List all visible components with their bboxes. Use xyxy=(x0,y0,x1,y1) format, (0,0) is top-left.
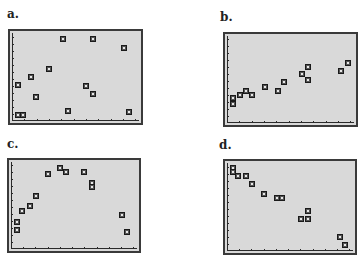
x-tick-a xyxy=(61,119,62,121)
x-tick-d xyxy=(251,249,252,251)
data-point-marker xyxy=(281,79,287,85)
data-point-marker xyxy=(119,212,125,218)
data-point-marker xyxy=(45,171,51,177)
y-tick-d xyxy=(227,195,229,196)
data-point-marker xyxy=(275,88,281,94)
y-tick-b xyxy=(227,109,229,110)
x-tick-b xyxy=(301,121,302,123)
data-point-marker xyxy=(124,229,130,235)
data-point-marker xyxy=(305,64,311,70)
x-axis-d xyxy=(227,250,353,251)
x-tick-b xyxy=(313,121,314,123)
y-tick-c xyxy=(11,200,13,201)
data-point-marker xyxy=(235,173,241,179)
y-tick-c xyxy=(11,228,13,229)
data-point-marker xyxy=(14,219,20,225)
y-tick-d xyxy=(227,244,229,245)
y-tick-c xyxy=(11,172,13,173)
data-point-marker xyxy=(298,216,304,222)
x-tick-a xyxy=(74,119,75,121)
data-point-marker xyxy=(89,184,95,190)
x-tick-b xyxy=(239,121,240,123)
y-tick-d xyxy=(227,237,229,238)
data-point-marker xyxy=(20,112,26,118)
y-tick-a xyxy=(12,79,14,80)
y-tick-b xyxy=(227,95,229,96)
x-tick-c xyxy=(35,247,36,249)
y-tick-b xyxy=(227,46,229,47)
x-tick-d xyxy=(337,249,338,251)
data-point-marker xyxy=(28,74,34,80)
y-tick-a xyxy=(12,51,14,52)
y-tick-a xyxy=(12,65,14,66)
y-tick-b xyxy=(227,81,229,82)
x-tick-b xyxy=(276,121,277,123)
y-tick-b xyxy=(227,116,229,117)
y-tick-d xyxy=(227,216,229,217)
x-tick-d xyxy=(276,249,277,251)
x-tick-a xyxy=(24,119,25,121)
data-point-marker xyxy=(27,203,33,209)
y-tick-d xyxy=(227,223,229,224)
data-point-marker xyxy=(65,108,71,114)
x-tick-c xyxy=(121,247,122,249)
x-axis-a xyxy=(12,120,139,121)
data-point-marker xyxy=(19,208,25,214)
x-axis-c xyxy=(11,248,137,249)
x-tick-a xyxy=(135,119,136,121)
y-tick-a xyxy=(12,86,14,87)
data-point-marker xyxy=(243,173,249,179)
scatter-plot-c xyxy=(7,158,141,253)
y-tick-b xyxy=(227,88,229,89)
x-tick-a xyxy=(49,119,50,121)
data-point-marker xyxy=(243,88,249,94)
x-tick-c xyxy=(48,247,49,249)
scatter-plot-b xyxy=(223,32,358,127)
x-tick-c xyxy=(72,247,73,249)
data-point-marker xyxy=(342,242,348,248)
y-tick-d xyxy=(227,181,229,182)
data-point-marker xyxy=(14,227,20,233)
data-point-marker xyxy=(299,71,305,77)
x-axis-b xyxy=(227,122,354,123)
y-tick-c xyxy=(11,242,13,243)
data-point-marker xyxy=(230,95,236,101)
data-point-marker xyxy=(261,191,267,197)
data-point-marker xyxy=(63,169,69,175)
data-point-marker xyxy=(249,92,255,98)
data-point-marker xyxy=(33,94,39,100)
data-point-marker xyxy=(249,181,255,187)
data-point-marker xyxy=(83,83,89,89)
x-tick-a xyxy=(86,119,87,121)
plot-area-d xyxy=(227,163,353,251)
x-tick-c xyxy=(97,247,98,249)
scatter-plot-a xyxy=(8,29,143,125)
x-tick-d xyxy=(313,249,314,251)
x-tick-c xyxy=(109,247,110,249)
y-tick-d xyxy=(227,209,229,210)
data-point-marker xyxy=(305,208,311,214)
y-tick-b xyxy=(227,67,229,68)
data-point-marker xyxy=(46,66,52,72)
x-tick-a xyxy=(37,119,38,121)
x-tick-c xyxy=(60,247,61,249)
data-point-marker xyxy=(345,60,351,66)
panel-label-a: a. xyxy=(7,8,19,20)
x-tick-d xyxy=(349,249,350,251)
y-tick-a xyxy=(12,37,14,38)
y-tick-a xyxy=(12,44,14,45)
y-tick-c xyxy=(11,186,13,187)
y-tick-b xyxy=(227,102,229,103)
y-tick-d xyxy=(227,230,229,231)
data-point-marker xyxy=(90,36,96,42)
scatter-plot-d xyxy=(223,159,357,255)
y-tick-c xyxy=(11,165,13,166)
data-point-marker xyxy=(57,165,63,171)
y-tick-a xyxy=(12,93,14,94)
y-tick-c xyxy=(11,235,13,236)
x-tick-d xyxy=(239,249,240,251)
y-tick-b xyxy=(227,39,229,40)
data-point-marker xyxy=(237,92,243,98)
x-tick-d xyxy=(264,249,265,251)
x-tick-d xyxy=(300,249,301,251)
